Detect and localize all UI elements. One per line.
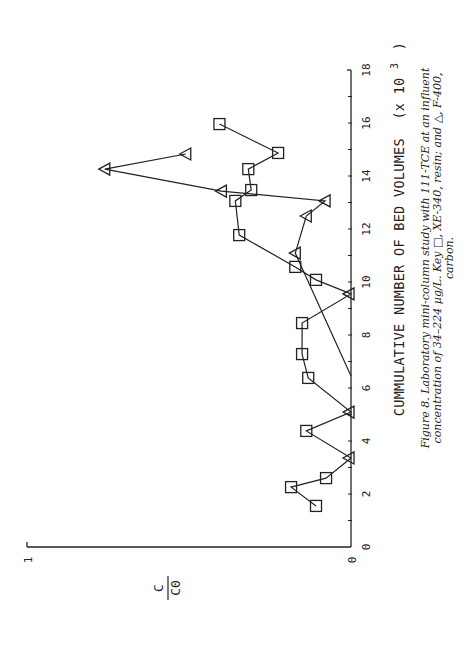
svg-text:12: 12 — [360, 222, 373, 235]
x-axis-title: CUMMULATIVE NUMBER OF BED VOLUMES (x 10 … — [385, 42, 407, 416]
svg-text:10: 10 — [360, 275, 373, 288]
svg-text:16: 16 — [360, 116, 373, 129]
series-line — [219, 124, 351, 506]
triangle-marker — [99, 163, 110, 175]
x-tick-label: 16 — [360, 116, 373, 129]
series-line — [105, 154, 351, 376]
svg-text:14: 14 — [360, 169, 373, 183]
y-axis-numerator: C — [151, 584, 166, 592]
svg-text:6: 6 — [360, 385, 373, 392]
svg-text:4: 4 — [360, 437, 373, 444]
x-tick-label: 10 — [360, 275, 373, 288]
x-tick-label: 4 — [360, 437, 373, 444]
y-axis-denominator: C0 — [168, 580, 183, 596]
series-layer — [99, 119, 354, 512]
triangle-marker — [343, 406, 354, 418]
svg-text:0: 0 — [346, 557, 359, 564]
svg-text:18: 18 — [360, 63, 373, 76]
x-axis-units-close: ) — [391, 42, 407, 50]
x-axis-units: (x 10 — [391, 77, 407, 119]
series-f-400-carbon — [99, 148, 351, 376]
svg-text:2: 2 — [360, 491, 373, 498]
figure-8: 02468101214161801 CUMMULATIVE NUMBER OF … — [0, 0, 474, 649]
x-tick-label: 14 — [360, 169, 373, 183]
caption-line-3: carbon. — [443, 237, 456, 279]
x-tick-label: 2 — [360, 491, 373, 498]
x-axis-title-text: CUMMULATIVE NUMBER OF BED VOLUMES — [391, 138, 407, 416]
figure-caption: Figure 8. Laboratory mini-column study w… — [419, 67, 456, 449]
x-tick-label: 6 — [360, 385, 373, 392]
svg-text:1: 1 — [22, 557, 35, 564]
y-axis-label: C C0 — [151, 576, 183, 600]
y-tick-label: 1 — [22, 557, 35, 564]
x-tick-label: 0 — [360, 544, 373, 551]
series-xe-340-resin — [214, 119, 354, 512]
svg-text:8: 8 — [360, 332, 373, 339]
svg-text:CUMMULATIVE NUMBER OF BED VOLU: CUMMULATIVE NUMBER OF BED VOLUMES (x 10 … — [385, 42, 407, 416]
x-tick-label: 8 — [360, 332, 373, 339]
axes: 02468101214161801 — [22, 63, 373, 563]
y-tick-label: 0 — [346, 557, 359, 564]
x-tick-label: 12 — [360, 222, 373, 235]
x-axis-exponent: 3 — [389, 63, 400, 69]
x-tick-label: 18 — [360, 63, 373, 76]
svg-text:0: 0 — [360, 544, 373, 551]
rotated-line-chart: 02468101214161801 CUMMULATIVE NUMBER OF … — [0, 0, 474, 649]
